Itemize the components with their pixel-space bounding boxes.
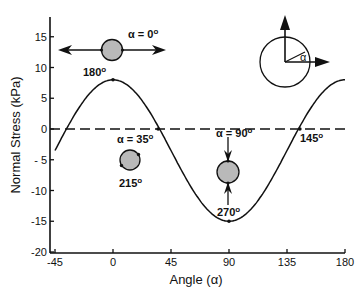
element-alpha-35 [120,150,140,170]
y-tick-label: -20 [31,246,47,258]
y-tick-label: - 5 [34,154,47,166]
annot-215: 215o [119,176,142,189]
annot-270: 270o [217,205,240,218]
data-point-marker [298,127,302,131]
arrow-right-icon [315,57,330,67]
annot-145: 145o [300,131,323,144]
marked-points [111,78,301,223]
x-tick-label: 90 [223,256,235,268]
y-tick-label: 10 [35,62,47,74]
x-tick-label: 135 [278,256,296,268]
data-point-marker [156,127,160,131]
y-tick-label: 0 [41,123,47,135]
y-tick-label: -15 [31,215,47,227]
data-point-marker [111,78,115,82]
x-tick-label: 45 [165,256,177,268]
stress-curve [55,80,345,222]
y-tick-label: 5 [41,92,47,104]
inset-alpha-label: α [300,51,307,63]
data-point-marker [227,219,231,223]
gray-element-circle [217,161,239,183]
arrow-up-icon [280,15,290,30]
annot-alpha-90: α = 90o [216,126,253,139]
inset-angle-diagram: α [260,15,330,87]
annot-180: 180o [83,65,106,78]
x-tick-label: -45 [47,256,63,268]
plot-series [50,80,345,222]
x-tick-label: 0 [110,256,116,268]
gray-element-circle [120,150,140,170]
y-axis-title: Normal Stress (kPa) [8,76,23,193]
annot-alpha-0: α = 0o [128,27,158,40]
x-tick-label: 180 [336,256,354,268]
y-tick-label: -10 [31,185,47,197]
stress-chart: 151050- 5-10-15-20 -4504590135180 Normal… [0,0,363,295]
x-axis-title: Angle (α) [169,272,222,287]
element-alpha-0 [58,40,166,61]
gray-element-circle [102,40,123,61]
x-ticks: -4504590135180 [47,249,354,268]
annot-alpha-35: α = 35o [117,132,154,145]
element-alpha-90 [217,137,239,205]
y-tick-label: 15 [35,31,47,43]
